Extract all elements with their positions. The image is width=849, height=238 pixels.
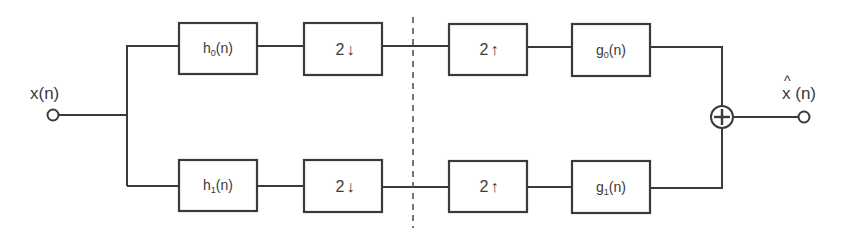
input-label: x(n): [30, 84, 59, 103]
down-arrow-icon: ↓: [346, 41, 354, 58]
filter-bank-diagram: x(n) h0(n) 2↓ 2↑ g0(n) h1(n) 2↓: [0, 0, 849, 238]
down-arrow-icon: ↓: [346, 178, 354, 195]
output-terminal-icon: [799, 112, 810, 123]
up-arrow-icon: ↑: [490, 41, 498, 58]
downsampler-bottom: 2↓: [304, 160, 382, 212]
upsampler-bottom: 2↑: [449, 161, 527, 212]
summing-junction: [711, 106, 733, 128]
output-node: x (n) ^: [782, 73, 816, 123]
svg-text:h0(n): h0(n): [203, 40, 233, 58]
analysis-filter-h1: h1(n): [179, 160, 257, 211]
downsampler-top: 2↓: [304, 23, 382, 75]
svg-text:g0(n): g0(n): [596, 42, 626, 60]
wire: [650, 47, 722, 106]
svg-text:g1(n): g1(n): [596, 179, 626, 197]
svg-text:h1(n): h1(n): [203, 177, 233, 195]
up-arrow-icon: ↑: [490, 178, 498, 195]
output-hat: ^: [784, 73, 791, 89]
synthesis-filter-g0: g0(n): [572, 24, 650, 76]
wire: [650, 128, 722, 188]
analysis-filter-h0: h0(n): [179, 23, 257, 74]
input-terminal-icon: [48, 110, 59, 121]
input-node: x(n): [30, 84, 59, 121]
upsampler-top: 2↑: [449, 24, 527, 75]
synthesis-filter-g1: g1(n): [572, 161, 650, 213]
